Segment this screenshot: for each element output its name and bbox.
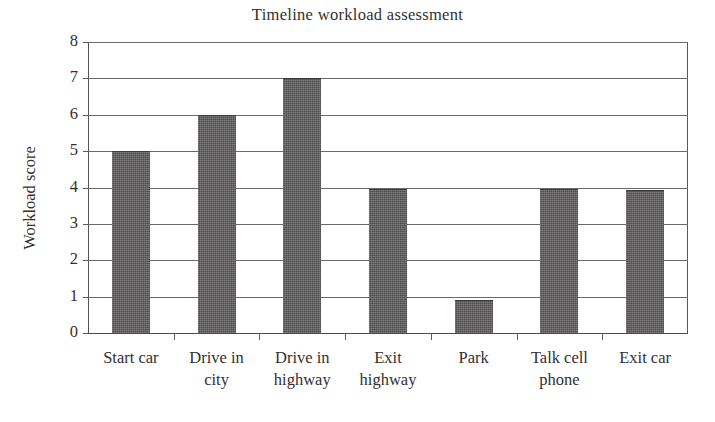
bar <box>369 189 407 333</box>
bar <box>626 190 664 333</box>
x-tick-label: Drive in city <box>174 347 260 391</box>
x-tick-label: Start car <box>88 347 174 369</box>
y-tick-label-1: 1 <box>36 288 78 305</box>
y-tick-label-0: 0 <box>36 324 78 341</box>
y-axis-title: Workload score <box>20 98 40 298</box>
bar <box>455 300 493 333</box>
bar <box>540 189 578 333</box>
y-tick-label-3: 3 <box>36 215 78 232</box>
x-tick-label: Exit car <box>602 347 688 369</box>
bar-chart-figure: Timeline workload assessment Workload sc… <box>0 0 715 422</box>
y-tick-mark-2 <box>83 260 88 261</box>
y-tick-mark-6 <box>83 115 88 116</box>
gridline-6 <box>88 115 688 116</box>
y-tick-label-4: 4 <box>36 179 78 196</box>
gridline-0 <box>88 333 688 334</box>
bar <box>283 78 321 333</box>
x-tick-mark <box>602 333 603 340</box>
y-tick-label-6: 6 <box>36 106 78 123</box>
gridline-8 <box>88 42 688 43</box>
y-tick-mark-4 <box>83 188 88 189</box>
chart-title: Timeline workload assessment <box>0 5 715 25</box>
x-tick-mark <box>431 333 432 340</box>
plot-area <box>88 42 688 333</box>
y-tick-label-2: 2 <box>36 251 78 268</box>
y-tick-mark-5 <box>83 151 88 152</box>
y-tick-mark-7 <box>83 78 88 79</box>
x-tick-mark <box>259 333 260 340</box>
x-tick-mark <box>345 333 346 340</box>
bar <box>198 115 236 333</box>
y-tick-label-8: 8 <box>36 33 78 50</box>
y-tick-mark-3 <box>83 224 88 225</box>
x-tick-label: Exit highway <box>345 347 431 391</box>
y-tick-mark-1 <box>83 297 88 298</box>
bar <box>112 151 150 333</box>
y-tick-label-7: 7 <box>36 69 78 86</box>
x-tick-label: Drive in highway <box>259 347 345 391</box>
gridline-5 <box>88 151 688 152</box>
y-tick-mark-8 <box>83 42 88 43</box>
gridline-7 <box>88 78 688 79</box>
x-tick-mark <box>174 333 175 340</box>
y-tick-label-5: 5 <box>36 142 78 159</box>
x-tick-label: Park <box>431 347 517 369</box>
y-tick-mark-0 <box>83 333 88 334</box>
x-tick-mark <box>517 333 518 340</box>
x-tick-label: Talk cell phone <box>517 347 603 391</box>
